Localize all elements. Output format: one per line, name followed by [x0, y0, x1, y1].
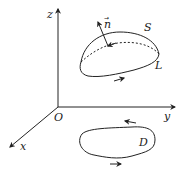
x-axis-label: x	[20, 140, 27, 153]
region-orientation-arrow-top	[125, 121, 136, 123]
surface-back-edge-dashed	[81, 42, 159, 62]
surface-upper-edge	[81, 32, 159, 62]
surface-orientation-arrow-front	[114, 78, 124, 81]
x-axis	[10, 107, 58, 147]
region-label: D	[138, 136, 148, 149]
origin-label: O	[54, 111, 63, 124]
boundary-label: L	[154, 59, 162, 72]
boundary-curve-l	[80, 54, 159, 77]
z-axis-label: z	[46, 8, 53, 21]
surface-s	[80, 32, 159, 77]
stokes-diagram: z y x O n → S L D	[0, 0, 183, 173]
surface-label: S	[144, 21, 152, 34]
y-axis-label: y	[163, 110, 171, 123]
normal-vector-arrow-glyph: →	[104, 14, 109, 21]
